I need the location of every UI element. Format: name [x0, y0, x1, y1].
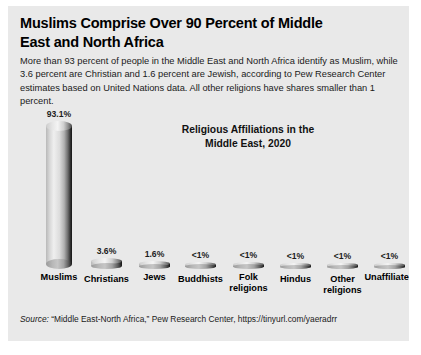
bar-group-other-religions: <1% Other religions [327, 263, 358, 269]
bar-value-label: <1% [192, 250, 209, 260]
bar-category-label: Jews [143, 272, 165, 283]
bar-group-christians: 3.6% Christians [91, 258, 122, 269]
cylinder-bar [139, 261, 170, 269]
cylinder-bar [280, 263, 311, 269]
bar-group-unaffiliated: <1% Unaffiliated [374, 263, 405, 269]
bar-value-label: 1.6% [145, 249, 165, 259]
figure-canvas: Muslims Comprise Over 90 Percent of Midd… [8, 6, 409, 341]
bar-value-label: 93.1% [47, 109, 71, 119]
cylinder-bar [185, 262, 216, 269]
bar-group-hindus: <1% Hindus [280, 263, 311, 269]
bar-group-muslims: 93.1% Muslims [46, 121, 72, 269]
cylinder-bar [233, 262, 264, 269]
bar-group-folk-religions: <1% Folk religions [233, 262, 264, 269]
cylinder-bar [91, 258, 122, 269]
bar-category-label: Buddhists [178, 274, 223, 285]
bar-value-label: 3.6% [97, 246, 117, 256]
bar-category-label: Christians [84, 274, 129, 285]
bar-category-label: Folk religions [229, 272, 267, 294]
source-citation: Source: “Middle East-North Africa,” Pew … [20, 314, 337, 324]
source-prefix: Source: [20, 314, 49, 324]
bar-group-buddhists: <1% Buddhists [185, 262, 216, 269]
bar-group-jews: 1.6% Jews [139, 261, 170, 269]
bar-value-label: <1% [381, 251, 398, 261]
bar-value-label: <1% [287, 251, 304, 261]
bar-category-label: Hindus [280, 274, 311, 285]
bar-value-label: <1% [334, 251, 351, 261]
chart-title: Religious Affiliations in the Middle Eas… [148, 123, 348, 151]
cylinder-bar [46, 121, 72, 269]
cylinder-bar [374, 263, 405, 269]
bar-category-label: Muslims [41, 272, 78, 283]
bar-category-label: Other religions [323, 274, 361, 296]
header-block: Muslims Comprise Over 90 Percent of Midd… [20, 14, 398, 108]
source-text: “Middle East-North Africa,” Pew Research… [49, 314, 337, 324]
bar-category-label: Unaffiliated [364, 272, 409, 283]
bar-value-label: <1% [240, 250, 257, 260]
chart-plot-area: Religious Affiliations in the Middle Eas… [8, 101, 409, 301]
figure-title: Muslims Comprise Over 90 Percent of Midd… [20, 14, 398, 51]
cylinder-bar [327, 263, 358, 269]
